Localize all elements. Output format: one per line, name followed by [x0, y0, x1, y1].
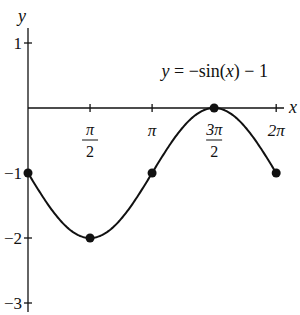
x-tick-label-denominator: 2	[86, 143, 94, 160]
y-tick-label: −2	[4, 229, 22, 248]
x-tick-label: π	[148, 121, 157, 140]
data-point	[86, 234, 95, 243]
y-tick-label: −1	[4, 164, 22, 183]
y-tick-label: −3	[4, 294, 22, 313]
y-axis-label: y	[16, 6, 26, 26]
x-tick-label-denominator: 2	[210, 143, 218, 160]
labels: yx1−1−2−3π2π3π22πy = −sin(x) − 1	[4, 6, 297, 313]
data-point	[210, 104, 219, 113]
data-point	[24, 169, 33, 178]
x-tick-label-numerator: π	[86, 121, 95, 138]
y-tick-label: 1	[14, 34, 23, 53]
data-point	[148, 169, 157, 178]
x-tick-label-numerator: 3π	[205, 121, 223, 138]
x-axis-label: x	[288, 97, 297, 117]
x-tick-label: 2π	[268, 121, 286, 140]
data-point	[272, 169, 281, 178]
chart-canvas: yx1−1−2−3π2π3π22πy = −sin(x) − 1	[0, 0, 300, 315]
equation-label: y = −sin(x) − 1	[160, 61, 268, 82]
